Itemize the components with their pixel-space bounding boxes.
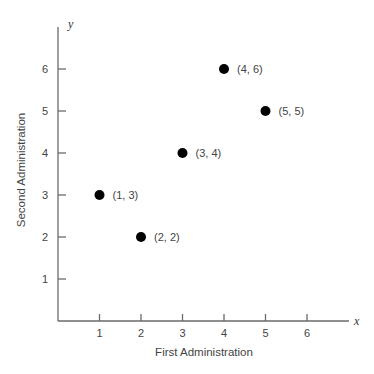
x-axis-title: First Administration bbox=[155, 346, 253, 358]
data-point-label: (4, 6) bbox=[237, 63, 263, 75]
x-axis-variable: x bbox=[353, 314, 360, 328]
y-tick-label: 6 bbox=[42, 63, 48, 75]
data-point-label: (2, 2) bbox=[154, 231, 180, 243]
y-axis-title: Second Administration bbox=[15, 113, 27, 227]
data-point-label: (5, 5) bbox=[279, 105, 305, 117]
x-tick-label: 2 bbox=[138, 327, 144, 339]
y-tick-label: 5 bbox=[42, 105, 48, 117]
data-point bbox=[136, 232, 146, 242]
data-point bbox=[178, 148, 188, 158]
data-points: (1, 3)(2, 2)(3, 4)(4, 6)(5, 5) bbox=[95, 63, 305, 243]
x-tick-label: 4 bbox=[221, 327, 227, 339]
y-tick-label: 1 bbox=[42, 273, 48, 285]
data-point-label: (3, 4) bbox=[196, 147, 222, 159]
x-tick-label: 3 bbox=[179, 327, 185, 339]
y-ticks: 123456 bbox=[42, 63, 66, 285]
data-point bbox=[95, 190, 105, 200]
data-point bbox=[219, 64, 229, 74]
y-tick-label: 3 bbox=[42, 189, 48, 201]
y-tick-label: 4 bbox=[42, 147, 48, 159]
x-tick-label: 1 bbox=[96, 327, 102, 339]
x-tick-label: 6 bbox=[304, 327, 310, 339]
y-axis-variable: y bbox=[67, 17, 74, 31]
y-tick-label: 2 bbox=[42, 231, 48, 243]
data-point bbox=[261, 106, 271, 116]
x-tick-label: 5 bbox=[262, 327, 268, 339]
x-ticks: 123456 bbox=[96, 314, 310, 339]
data-point-label: (1, 3) bbox=[113, 189, 139, 201]
scatter-chart: y x 123456 123456 First Administration S… bbox=[0, 0, 374, 374]
